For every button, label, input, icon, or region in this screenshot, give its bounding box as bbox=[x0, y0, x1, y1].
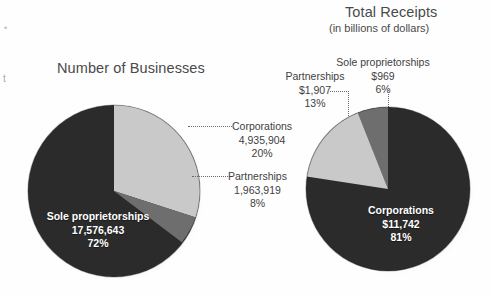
right-inner-label-value: $11,742 bbox=[340, 218, 462, 232]
left-leader-line-corporations bbox=[188, 126, 232, 127]
right-pie-svg bbox=[305, 98, 487, 290]
scan-artifact-dot: • bbox=[4, 24, 7, 33]
left-chart-title: Number of Businesses bbox=[57, 60, 205, 76]
right-callout-partnerships-name: Partnerships bbox=[278, 70, 352, 84]
left-pie-chart bbox=[22, 96, 212, 292]
right-pie-inner-label: Corporations $11,742 81% bbox=[340, 204, 462, 245]
right-leader-line-partnerships-horizontal bbox=[330, 91, 349, 92]
right-chart-title: Total Receipts bbox=[345, 4, 437, 20]
left-pie-inner-label: Sole proprietorships 17,576,643 72% bbox=[28, 210, 168, 251]
scan-artifact-text: t bbox=[3, 74, 6, 84]
left-callout-corporations-name: Corporations bbox=[232, 120, 292, 134]
left-inner-label-value: 17,576,643 bbox=[28, 224, 168, 238]
right-inner-label-percent: 81% bbox=[340, 231, 462, 245]
left-callout-partnerships: Partnerships 1,963,919 8% bbox=[228, 170, 287, 211]
right-callout-sole-name: Sole proprietorships bbox=[330, 56, 436, 70]
left-pie-svg bbox=[22, 96, 212, 292]
left-callout-corporations-value: 4,935,904 bbox=[232, 134, 292, 148]
right-inner-label-name: Corporations bbox=[340, 204, 462, 218]
left-leader-line-partnerships bbox=[192, 176, 228, 177]
left-inner-label-percent: 72% bbox=[28, 237, 168, 251]
left-callout-corporations: Corporations 4,935,904 20% bbox=[232, 120, 292, 161]
left-callout-partnerships-value: 1,963,919 bbox=[228, 184, 287, 198]
left-callout-corporations-percent: 20% bbox=[232, 147, 292, 161]
figure-canvas: • t Number of Businesses Sole proprietor… bbox=[0, 0, 491, 296]
right-pie-chart bbox=[305, 98, 487, 290]
left-callout-partnerships-percent: 8% bbox=[228, 197, 287, 211]
left-callout-partnerships-name: Partnerships bbox=[228, 170, 287, 184]
left-inner-label-name: Sole proprietorships bbox=[28, 210, 168, 224]
right-chart-subtitle: (in billions of dollars) bbox=[329, 22, 429, 34]
